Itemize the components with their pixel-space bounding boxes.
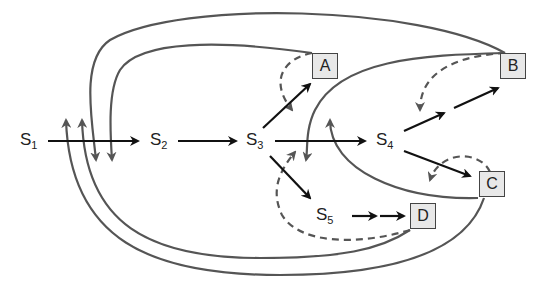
- arrow-S4-to-C: [404, 151, 470, 176]
- arrow-S4-to-B-part1: [404, 113, 444, 131]
- feedback-arc-C-to-S1: [66, 120, 484, 275]
- state-label: S: [20, 130, 31, 149]
- feedback-arc-C-to-S4: [330, 120, 478, 198]
- state-S4: S4: [376, 131, 393, 151]
- state-S1: S1: [20, 131, 37, 151]
- arrow-S4-to-B-part2: [454, 88, 498, 108]
- state-label: S: [150, 130, 161, 149]
- state-subscript: 1: [31, 139, 37, 151]
- outcome-box-C: C: [479, 171, 505, 197]
- state-subscript: 2: [161, 139, 167, 151]
- state-subscript: 3: [257, 139, 263, 151]
- diagram-canvas: [0, 0, 547, 289]
- state-S2: S2: [150, 131, 167, 151]
- state-S3: S3: [246, 131, 263, 151]
- feedback-arc-A-to-S2: [110, 45, 312, 160]
- state-label: S: [376, 130, 387, 149]
- outcome-box-B: B: [500, 53, 526, 79]
- dashed-arc-A-to-S3: [281, 53, 312, 110]
- state-S5: S5: [316, 206, 333, 226]
- state-subscript: 5: [327, 214, 333, 226]
- dashed-arc-B-to-S4: [420, 53, 505, 110]
- outcome-box-D: D: [410, 203, 436, 229]
- state-label: S: [246, 130, 257, 149]
- outcome-box-A: A: [312, 53, 338, 79]
- dashed-arc-D-to-S3: [277, 152, 410, 240]
- state-label: S: [316, 205, 327, 224]
- state-subscript: 4: [387, 139, 393, 151]
- arrow-S3-to-A: [263, 84, 310, 128]
